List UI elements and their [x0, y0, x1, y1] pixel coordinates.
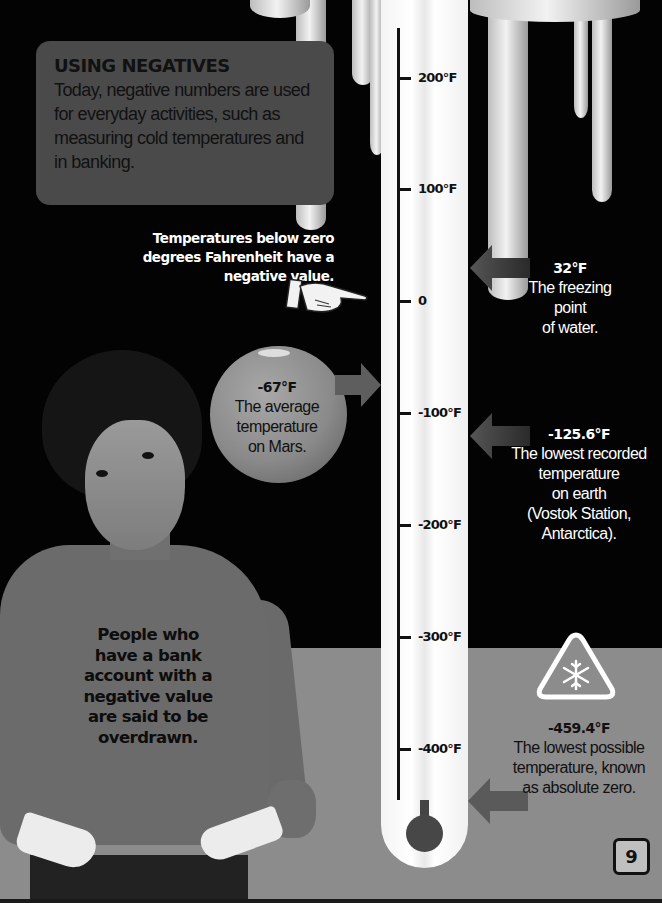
page-number: 9 — [613, 838, 650, 875]
tick-minus-400 — [397, 748, 411, 751]
tick-100 — [397, 188, 411, 191]
page-bottom-edge — [0, 899, 662, 903]
tick-label-0: 0 — [418, 293, 426, 309]
absolute-zero-text-3: as absolute zero. — [496, 778, 662, 798]
overdrawn-line-4: negative value — [50, 687, 246, 708]
overdrawn-line-6: overdrawn. — [50, 728, 246, 749]
mars-polar-cap — [258, 349, 290, 357]
absolute-zero-text-1: The lowest possible — [496, 738, 662, 758]
mars-temperature: -67°F — [212, 377, 342, 397]
freezing-point-callout: 32°F The freezing point of water. — [505, 258, 635, 338]
freezing-text-2: point — [505, 298, 635, 318]
vostok-text-1: The lowest recorded — [496, 444, 662, 464]
info-box-title: USING NEGATIVES — [54, 55, 316, 77]
absolute-zero-text-2: temperature, known — [496, 758, 662, 778]
tick-0 — [397, 300, 411, 303]
overdrawn-line-1: People who — [50, 625, 246, 646]
thermometer — [381, 0, 468, 868]
tick-minus-100 — [397, 412, 411, 415]
mars-text-3: on Mars. — [212, 437, 342, 457]
freezing-text-1: The freezing — [505, 278, 635, 298]
tick-label-100: 100°F — [418, 181, 457, 197]
pointing-hand-icon — [285, 276, 371, 316]
overdrawn-text: People who have a bank account with a ne… — [50, 625, 246, 748]
tick-200 — [397, 77, 411, 80]
vostok-temperature: -125.6°F — [496, 424, 662, 444]
absolute-zero-temperature: -459.4°F — [496, 718, 662, 738]
freezing-text-3: of water. — [505, 318, 635, 338]
tick-label-minus-200: -200°F — [418, 517, 461, 533]
tick-label-200: 200°F — [418, 70, 457, 86]
using-negatives-box: USING NEGATIVES Today, negative numbers … — [36, 41, 334, 205]
tick-minus-300 — [397, 636, 411, 639]
mars-callout: -67°F The average temperature on Mars. — [212, 377, 342, 457]
vostok-text-2: temperature — [496, 464, 662, 484]
overdrawn-line-3: account with a — [50, 666, 246, 687]
tick-minus-200 — [397, 524, 411, 527]
absolute-zero-callout: -459.4°F The lowest possible temperature… — [496, 718, 662, 798]
vostok-text-4: (Vostok Station, — [496, 504, 662, 524]
freezing-temperature: 32°F — [505, 258, 635, 278]
mars-text-2: temperature — [212, 417, 342, 437]
tick-label-minus-100: -100°F — [418, 405, 461, 421]
vostok-text-5: Antarctica). — [496, 524, 662, 544]
vostok-callout: -125.6°F The lowest recorded temperature… — [496, 424, 662, 544]
info-box-body: Today, negative numbers are used for eve… — [54, 78, 316, 174]
tick-label-minus-400: -400°F — [418, 741, 461, 757]
mars-text-1: The average — [212, 397, 342, 417]
overdrawn-line-5: are said to be — [50, 707, 246, 728]
mercury-bulb — [406, 815, 443, 852]
snowflake-warning-icon — [536, 631, 616, 701]
tick-label-minus-300: -300°F — [418, 629, 461, 645]
vostok-text-3: on earth — [496, 484, 662, 504]
overdrawn-line-2: have a bank — [50, 646, 246, 667]
page: USING NEGATIVES Today, negative numbers … — [0, 0, 662, 903]
